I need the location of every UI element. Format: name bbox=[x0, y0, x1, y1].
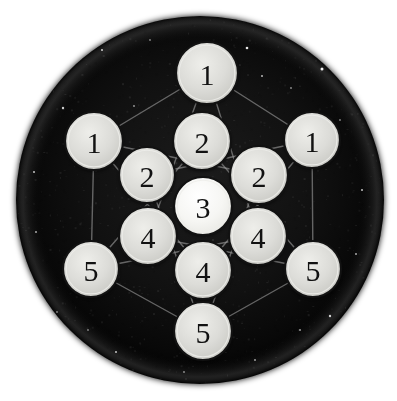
star-speckle bbox=[183, 371, 185, 373]
token-left-2[interactable]: 2 bbox=[119, 147, 175, 205]
token-face bbox=[176, 42, 238, 104]
token-right-1[interactable]: 1 bbox=[284, 112, 340, 170]
star-speckle bbox=[290, 87, 292, 89]
token-face bbox=[174, 177, 232, 235]
star-speckle bbox=[246, 47, 249, 50]
token-face bbox=[229, 207, 287, 265]
star-speckle bbox=[133, 105, 135, 107]
star-speckle bbox=[115, 351, 117, 353]
disc-arrangement-figure: 1112223444555 bbox=[0, 0, 397, 401]
star-speckle bbox=[361, 189, 363, 191]
star-speckle bbox=[339, 119, 341, 121]
star-speckle bbox=[329, 315, 331, 317]
star-speckle bbox=[87, 329, 89, 331]
token-face bbox=[119, 147, 175, 203]
token-face bbox=[230, 146, 288, 204]
star-speckle bbox=[299, 329, 301, 331]
star-speckle bbox=[321, 68, 324, 71]
token-face bbox=[174, 302, 232, 360]
star-speckle bbox=[261, 75, 263, 77]
scene-root: 1112223444555 bbox=[0, 0, 397, 401]
token-face bbox=[284, 112, 340, 168]
token-right-2[interactable]: 2 bbox=[230, 146, 288, 206]
star-speckle bbox=[35, 231, 37, 233]
token-left-5[interactable]: 5 bbox=[63, 241, 119, 299]
token-left-4[interactable]: 4 bbox=[119, 207, 177, 267]
token-center-3[interactable]: 3 bbox=[174, 177, 232, 237]
star-speckle bbox=[254, 359, 256, 361]
token-face bbox=[65, 112, 123, 170]
token-bottom-5[interactable]: 5 bbox=[174, 302, 232, 362]
token-right-5[interactable]: 5 bbox=[285, 241, 341, 299]
token-lower-4[interactable]: 4 bbox=[174, 241, 232, 301]
star-speckle bbox=[62, 107, 64, 109]
token-upper-2[interactable]: 2 bbox=[173, 112, 231, 172]
token-face bbox=[173, 112, 231, 170]
token-left-1[interactable]: 1 bbox=[65, 112, 123, 172]
token-top-1[interactable]: 1 bbox=[176, 42, 238, 106]
star-speckle bbox=[355, 253, 357, 255]
star-speckle bbox=[56, 311, 58, 313]
token-face bbox=[63, 241, 119, 297]
star-speckle bbox=[149, 39, 151, 41]
token-face bbox=[119, 207, 177, 265]
token-right-4[interactable]: 4 bbox=[229, 207, 287, 267]
star-speckle bbox=[101, 49, 103, 51]
token-face bbox=[285, 241, 341, 297]
token-face bbox=[174, 241, 232, 299]
star-speckle bbox=[33, 171, 35, 173]
